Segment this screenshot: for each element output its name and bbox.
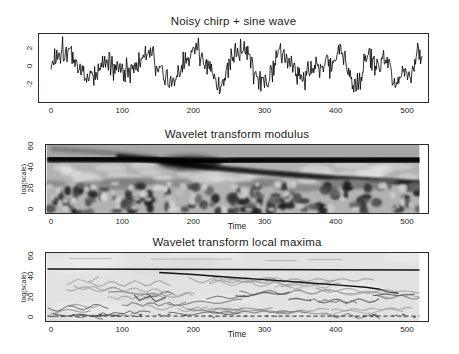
x-tick-label: 200 bbox=[187, 325, 200, 334]
x-tick-label: 400 bbox=[329, 325, 342, 334]
signal-plot-title: Noisy chirp + sine wave bbox=[38, 15, 429, 27]
y-tick-label: 0 bbox=[26, 207, 35, 211]
maxima-plot-title: Wavelet transform local maxima bbox=[45, 236, 429, 248]
maxima-logscale-axis-label: log(scale) bbox=[20, 272, 27, 302]
x-tick-label: 0 bbox=[49, 325, 53, 334]
modulus-plot-title: Wavelet transform modulus bbox=[45, 128, 429, 140]
y-tick-label: 0 bbox=[26, 315, 35, 319]
x-tick-label: 100 bbox=[116, 217, 129, 226]
modulus-logscale-axis-label: log(scale) bbox=[20, 164, 27, 194]
modulus-heatmap-canvas bbox=[45, 144, 429, 214]
y-tick-label: 20 bbox=[26, 292, 35, 301]
signal-plot-frame bbox=[38, 33, 429, 103]
x-tick-label: 200 bbox=[187, 217, 200, 226]
wavelet-analysis-figure: Noisy chirp + sine wave 0100200300400500… bbox=[0, 0, 459, 354]
x-tick-label: 100 bbox=[116, 106, 129, 115]
y-tick-label: 40 bbox=[26, 163, 35, 172]
y-tick-label: 40 bbox=[26, 272, 35, 281]
maxima-ridges-canvas bbox=[45, 252, 429, 322]
y-tick-label: 2 bbox=[25, 46, 34, 50]
x-tick-label: 500 bbox=[400, 106, 413, 115]
maxima-plot-frame bbox=[45, 252, 429, 322]
signal-waveform-canvas bbox=[38, 33, 429, 103]
y-tick-label: 20 bbox=[26, 184, 35, 193]
x-tick-label: 300 bbox=[258, 325, 271, 334]
modulus-plot-frame bbox=[45, 144, 429, 214]
x-tick-label: 300 bbox=[258, 106, 271, 115]
x-tick-label: 500 bbox=[400, 217, 413, 226]
x-tick-label: 400 bbox=[329, 106, 342, 115]
x-tick-label: 100 bbox=[116, 325, 129, 334]
maxima-time-axis-label: Time bbox=[228, 329, 247, 339]
x-tick-label: 0 bbox=[49, 217, 53, 226]
x-tick-label: 400 bbox=[329, 217, 342, 226]
y-tick-label: -2 bbox=[25, 81, 34, 88]
modulus-time-axis-label: Time bbox=[228, 221, 247, 231]
y-tick-label: 60 bbox=[26, 252, 35, 261]
x-tick-label: 300 bbox=[258, 217, 271, 226]
x-tick-label: 0 bbox=[49, 106, 53, 115]
y-tick-label: 60 bbox=[26, 142, 35, 151]
x-tick-label: 200 bbox=[187, 106, 200, 115]
y-tick-label: 0 bbox=[25, 64, 34, 68]
x-tick-label: 500 bbox=[400, 325, 413, 334]
